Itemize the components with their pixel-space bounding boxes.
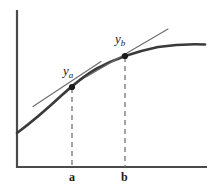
label-y-a: ya [63, 64, 73, 80]
tangent-line-at-b [86, 29, 168, 77]
x-tick-label-a: a [69, 171, 75, 183]
x-tick-label-b: b [121, 171, 128, 183]
label-y-b-subscript: b [121, 38, 126, 48]
point-a-dot [69, 84, 75, 90]
production-curve [17, 44, 205, 133]
label-y-a-subscript: a [69, 70, 74, 80]
point-b-dot [122, 53, 128, 59]
figure-canvas [0, 0, 212, 192]
figure-container: ya yb a b [0, 0, 212, 192]
label-y-b: yb [115, 32, 125, 48]
